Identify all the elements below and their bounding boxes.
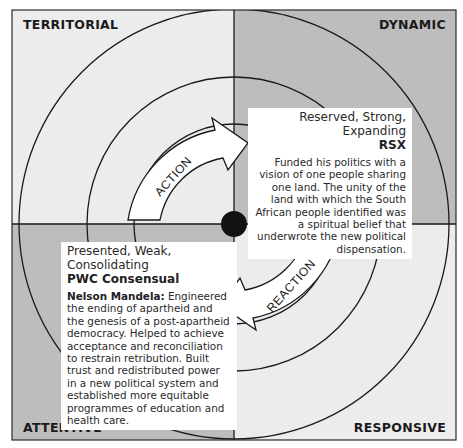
rsx-description-box: Reserved, Strong, Expanding RSX Funded h… [248, 108, 412, 259]
pwc-body-text: Engineered the ending of apartheid and t… [67, 290, 230, 426]
center-dot [221, 211, 247, 237]
pwc-code: PWC Consensual [67, 272, 231, 286]
label-territorial: TERRITORIAL [23, 17, 118, 32]
rsx-heading: Reserved, Strong, Expanding [254, 110, 406, 138]
pwc-body: Nelson Mandela: Engineered the ending of… [67, 290, 231, 426]
pwc-description-box: Presented, Weak, Consolidating PWC Conse… [61, 242, 237, 430]
rsx-body: Funded his politics with a vision of one… [254, 156, 406, 255]
quadrant-territorial [12, 10, 234, 224]
pwc-person-name: Nelson Mandela: [67, 290, 165, 302]
rsx-code: RSX [254, 138, 406, 152]
leadership-quadrant-diagram: ACTION REACTION TERRITORIAL DYNAMIC ATTE… [0, 0, 463, 448]
pwc-heading: Presented, Weak, Consolidating [67, 244, 231, 272]
label-responsive: RESPONSIVE [354, 420, 446, 435]
label-dynamic: DYNAMIC [379, 17, 446, 32]
